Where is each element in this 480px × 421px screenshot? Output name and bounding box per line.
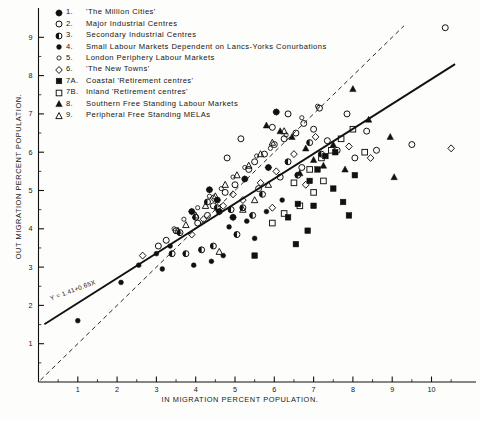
- legend-item-number: 4.: [66, 42, 86, 51]
- data-point: [346, 143, 353, 150]
- data-point: [264, 163, 272, 171]
- legend-item-8[interactable]: 8.Southern Free Standing Labour Markets: [52, 98, 382, 109]
- series-6: [139, 133, 454, 259]
- legend-item-9[interactable]: 9.Peripheral Free Standing MELAs: [52, 109, 382, 120]
- data-point: [285, 159, 291, 165]
- data-point: [196, 206, 200, 210]
- data-point: [216, 248, 222, 254]
- legend-item-number: 7B.: [66, 87, 86, 96]
- data-point: [332, 149, 338, 155]
- data-point: [291, 180, 297, 186]
- series-4: [75, 198, 284, 323]
- x-tick-label: 2: [107, 385, 127, 394]
- x-tick-label: 7: [304, 385, 324, 394]
- y-tick-label: 2: [19, 301, 33, 310]
- data-point: [321, 178, 327, 184]
- data-point: [139, 252, 146, 259]
- data-point: [448, 145, 455, 152]
- data-point: [246, 162, 252, 168]
- legend-item-label: London Periphery Labour Markets: [86, 53, 215, 62]
- circle-small-filled-icon: [52, 41, 66, 52]
- y-tick-label: 1: [19, 339, 33, 348]
- y-tick-label: 4: [19, 224, 33, 233]
- data-point: [352, 172, 358, 178]
- data-point: [269, 124, 275, 130]
- data-point: [250, 212, 256, 218]
- data-point: [387, 133, 393, 139]
- data-point: [263, 122, 269, 128]
- y-tick-label: 9: [19, 33, 33, 42]
- circle-tiny-open-icon: [52, 52, 66, 63]
- data-point: [269, 204, 276, 211]
- legend-item-number: 2.: [66, 19, 86, 28]
- data-point: [238, 136, 244, 142]
- data-point: [305, 228, 311, 234]
- legend-item-7B[interactable]: 7B.Inland 'Retirement centres': [52, 86, 382, 97]
- data-point: [273, 168, 280, 175]
- legend-item-number: 1.: [66, 7, 86, 16]
- legend-item-label: Southern Free Standing Labour Markets: [86, 99, 238, 108]
- data-point: [195, 220, 201, 226]
- data-point: [268, 146, 272, 150]
- data-point: [220, 202, 227, 209]
- data-point: [280, 198, 285, 203]
- data-point: [229, 213, 237, 221]
- legend: 1.'The Million Cities'2.Major Industrial…: [52, 6, 382, 120]
- legend-item-7A[interactable]: 7A.Coastal 'Retirement centres': [52, 75, 382, 86]
- data-point: [251, 197, 257, 203]
- legend-item-4[interactable]: 4.Small Labour Markets Dependent on Lanc…: [52, 40, 382, 51]
- data-point: [155, 243, 161, 249]
- legend-item-2[interactable]: 2.Major Industrial Centres: [52, 17, 382, 28]
- circle-half-filled-icon: [52, 29, 66, 40]
- data-point: [311, 126, 317, 132]
- y-tick-label: 6: [19, 148, 33, 157]
- triangle-filled-icon: [52, 98, 66, 109]
- x-tick-label: 10: [422, 385, 442, 394]
- legend-item-number: 5.: [66, 53, 86, 62]
- circle-open-icon: [52, 18, 66, 29]
- data-point: [291, 151, 298, 158]
- x-tick-label: 3: [146, 385, 166, 394]
- data-point: [168, 244, 173, 249]
- data-point: [270, 220, 276, 226]
- data-point: [234, 172, 240, 178]
- data-point: [75, 318, 80, 323]
- data-point: [342, 166, 348, 172]
- legend-item-3[interactable]: 3.Secondary Industrial Centres: [52, 29, 382, 40]
- data-point: [252, 159, 258, 165]
- data-point: [205, 186, 213, 194]
- x-tick-label: 6: [264, 385, 284, 394]
- series-3: [169, 140, 324, 257]
- y-axis-label: OUT MIGRATION PERCENT POPULATION.: [14, 77, 23, 277]
- legend-item-6[interactable]: 6.'The New Towns': [52, 63, 382, 74]
- x-tick-label: 4: [186, 385, 206, 394]
- data-point: [307, 140, 313, 146]
- legend-item-label: Major Industrial Centres: [86, 19, 177, 28]
- data-point: [252, 253, 258, 259]
- y-tick-label: 5: [19, 186, 33, 195]
- legend-item-5[interactable]: 5.London Periphery Labour Markets: [52, 52, 382, 63]
- data-point: [163, 237, 169, 243]
- data-point: [224, 155, 230, 161]
- square-filled-icon: [52, 75, 66, 86]
- data-point: [323, 153, 329, 159]
- data-point: [241, 175, 249, 183]
- data-point: [154, 251, 159, 256]
- data-point: [442, 25, 448, 31]
- legend-item-label: Peripheral Free Standing MELAs: [86, 110, 211, 119]
- data-point: [119, 280, 124, 285]
- data-point: [264, 209, 269, 214]
- data-point: [340, 199, 346, 205]
- legend-item-label: Small Labour Markets Dependent on Lancs-…: [86, 42, 327, 51]
- data-point: [285, 215, 291, 221]
- y-tick-label: 3: [19, 263, 33, 272]
- data-point: [391, 174, 397, 180]
- data-point: [232, 182, 238, 188]
- data-point: [367, 154, 374, 161]
- x-axis-label: IN MIGRATION PERCENT POPULATION.: [0, 395, 480, 404]
- data-point: [364, 128, 370, 134]
- data-point: [315, 167, 321, 173]
- data-point: [244, 219, 249, 224]
- legend-item-1[interactable]: 1.'The Million Cities': [52, 6, 382, 17]
- data-point: [295, 201, 301, 207]
